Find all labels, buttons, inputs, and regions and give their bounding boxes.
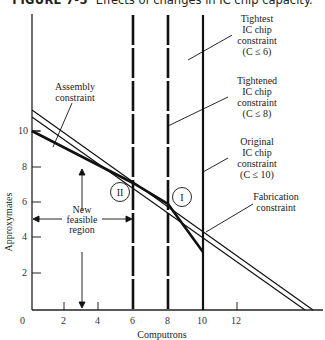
svg-text:constraint: constraint [55, 92, 95, 103]
svg-text:IC chip: IC chip [242, 86, 272, 97]
svg-text:(C ≤ 6): (C ≤ 6) [243, 46, 272, 58]
y-tick-6: 6 [22, 196, 27, 207]
x-tick-12: 12 [231, 315, 241, 326]
y-tick-10: 10 [18, 125, 28, 136]
label-tightest-constraint: Tightest IC chip constraint (C ≤ 6) [232, 12, 280, 67]
svg-text:region: region [69, 224, 95, 235]
svg-text:(C ≤ 8): (C ≤ 8) [243, 108, 272, 120]
svg-text:IC chip: IC chip [242, 147, 272, 158]
svg-text:Assembly: Assembly [55, 81, 95, 92]
x-tick-8: 8 [165, 315, 170, 326]
x-tick-6: 6 [130, 315, 135, 326]
svg-text:Original: Original [240, 136, 274, 147]
x-tick-0: 0 [20, 315, 25, 326]
label-original-constraint: Original IC chip constraint (C ≤ 10) [237, 136, 277, 181]
y-tick-8: 8 [22, 161, 27, 172]
svg-text:IC chip: IC chip [242, 24, 272, 35]
label-new-feasible-region: New feasible region [62, 204, 102, 247]
svg-text:(C ≤ 10): (C ≤ 10) [240, 169, 274, 181]
svg-text:Tightest: Tightest [241, 13, 274, 24]
svg-text:Fabrication: Fabrication [253, 191, 299, 202]
svg-text:Tightened: Tightened [237, 75, 277, 86]
svg-text:constraint: constraint [256, 202, 296, 213]
point-i-label: I [180, 192, 183, 203]
label-tightened-constraint: Tightened IC chip constraint (C ≤ 8) [237, 75, 277, 120]
svg-text:constraint: constraint [237, 158, 277, 169]
label-fabrication-constraint: Fabrication constraint [253, 191, 299, 213]
label-assembly-constraint: Assembly constraint [55, 81, 95, 103]
y-axis-label: Approxymates [3, 192, 14, 251]
y-ticks [32, 131, 41, 273]
x-tick-2: 2 [61, 315, 66, 326]
x-axis-label: Computrons [137, 329, 187, 340]
point-ii-label: II [117, 187, 124, 198]
chart-canvas: 10 8 6 4 2 0 2 4 6 8 10 12 Computrons Ap… [0, 0, 325, 340]
x-tick-10: 10 [197, 315, 207, 326]
y-tick-4: 4 [22, 231, 27, 242]
svg-text:constraint: constraint [237, 97, 277, 108]
x-tick-4: 4 [95, 315, 100, 326]
y-tick-2: 2 [22, 267, 27, 278]
x-ticks [64, 302, 237, 310]
svg-text:constraint: constraint [237, 35, 277, 46]
